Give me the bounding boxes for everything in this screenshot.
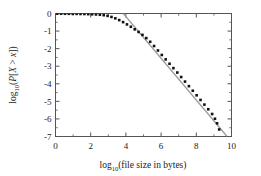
data-point-marker xyxy=(203,103,206,106)
data-point-marker xyxy=(149,40,152,43)
data-point-marker xyxy=(145,37,148,40)
data-point-marker xyxy=(137,31,140,34)
ccdf-scatter-plot: 0246810 0-1-2-3-4-5-6-7 log10(file size … xyxy=(0,0,261,176)
data-point-marker xyxy=(60,12,63,15)
data-point-marker xyxy=(68,12,71,15)
y-tick-label: -4 xyxy=(44,79,52,89)
data-point-marker xyxy=(64,12,67,15)
data-point-marker xyxy=(122,21,125,24)
data-point-marker xyxy=(172,67,175,70)
data-point-marker xyxy=(161,54,164,57)
y-tick-label: -6 xyxy=(44,114,52,124)
chart-figure: 0246810 0-1-2-3-4-5-6-7 log10(file size … xyxy=(0,0,261,176)
data-point-marker xyxy=(214,117,217,120)
data-point-marker xyxy=(99,13,102,16)
x-axis-title-rest: (file size in bytes) xyxy=(118,160,186,171)
data-point-marker xyxy=(207,108,210,111)
data-point-marker xyxy=(56,12,59,15)
x-tick-label: 2 xyxy=(88,141,93,151)
y-tick-label: -3 xyxy=(44,61,52,71)
data-point-marker xyxy=(102,14,105,17)
y-tick-label: -1 xyxy=(44,26,52,36)
data-point-marker xyxy=(133,28,136,31)
data-point-marker xyxy=(126,23,129,26)
y-axis-title-base: log xyxy=(8,91,18,103)
data-point-marker xyxy=(114,17,117,20)
y-axis-tick-labels: 0-1-2-3-4-5-6-7 xyxy=(44,9,52,142)
plot-frame xyxy=(56,14,232,137)
data-point-marker xyxy=(188,85,191,88)
x-tick-label: 0 xyxy=(53,141,58,151)
data-point-marker xyxy=(199,99,202,102)
y-axis-title-close-paren: ) xyxy=(8,46,19,49)
data-point-marker xyxy=(71,13,74,16)
y-tick-label: 0 xyxy=(47,9,52,19)
x-axis-tick-labels: 0246810 xyxy=(53,141,236,151)
data-point-marker xyxy=(168,62,171,65)
y-axis-title: log10(P[X > x]) xyxy=(8,46,20,103)
data-point-marker xyxy=(180,76,183,79)
data-point-marker xyxy=(141,34,144,37)
data-point-marker xyxy=(106,15,109,18)
x-tick-label: 6 xyxy=(159,141,164,151)
data-point-marker xyxy=(153,45,156,48)
data-point-marker xyxy=(184,80,187,83)
x-tick-label: 4 xyxy=(124,141,129,151)
y-axis-title-gt: > xyxy=(8,57,18,67)
x-axis-title-base: log xyxy=(100,160,112,170)
svg-text:log10(P[X > x]): log10(P[X > x]) xyxy=(8,46,20,103)
data-point-marker xyxy=(211,113,214,116)
data-point-marker xyxy=(95,13,98,16)
data-point-marker xyxy=(75,13,78,16)
data-point-marker xyxy=(176,71,179,74)
x-axis-title: log10(file size in bytes) xyxy=(100,160,187,172)
x-tick-label: 10 xyxy=(227,141,237,151)
data-point-marker xyxy=(157,49,160,52)
y-tick-label: -2 xyxy=(44,44,52,54)
data-point-marker xyxy=(191,89,194,92)
x-tick-label: 8 xyxy=(194,141,199,151)
data-point-marker xyxy=(164,58,167,61)
data-point-marker xyxy=(218,128,221,131)
y-tick-label: -5 xyxy=(44,97,52,107)
data-point-marker xyxy=(130,25,133,28)
y-tick-label: -7 xyxy=(44,132,52,142)
data-point-marker xyxy=(216,122,219,125)
svg-text:log10(file size in bytes): log10(file size in bytes) xyxy=(100,160,187,172)
data-point-marker xyxy=(110,16,113,19)
data-point-marker xyxy=(195,94,198,97)
data-point-marker xyxy=(118,19,121,22)
